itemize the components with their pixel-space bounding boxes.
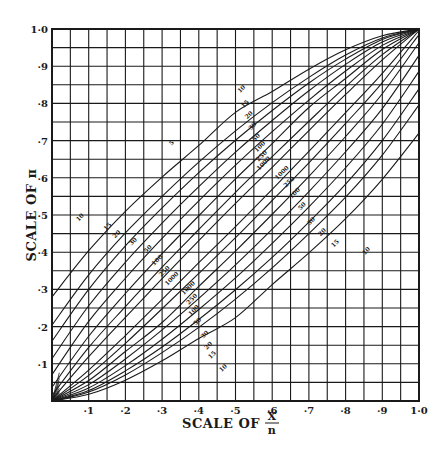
curve-label-left: 20 — [111, 228, 122, 239]
y-tick-label: ·9 — [38, 61, 48, 72]
x-tick-label: ·9 — [377, 405, 387, 416]
curve-label-upper: 5 — [167, 139, 175, 147]
y-axis-title: SCALE OF π — [24, 169, 39, 262]
y-tick-label: ·7 — [38, 136, 48, 147]
curve-label-upper: 20 — [243, 109, 254, 120]
curve-label-bottom: 250 — [185, 292, 199, 306]
y-tick-label: ·4 — [38, 247, 48, 258]
curve-label-lower: 20 — [316, 226, 327, 237]
grid — [52, 29, 419, 401]
x-axis-title-numerator: X — [267, 410, 276, 423]
x-tick-label: 1·0 — [410, 405, 427, 416]
x-tick-label: ·8 — [340, 405, 350, 416]
x-axis-title-text: SCALE OF — [182, 416, 260, 431]
curve-label-upper: 15 — [239, 98, 250, 109]
y-tick-label: 1·0 — [31, 24, 48, 35]
confidence-belt-chart: 1015203050100250100051000250100503020151… — [0, 0, 448, 456]
y-tick-label: ·1 — [38, 359, 48, 370]
curve-label-bottom: 15 — [206, 349, 217, 360]
y-tick-label: ·3 — [38, 284, 48, 295]
curve-label-lower: 15 — [329, 238, 340, 249]
y-tick-label: ·8 — [38, 98, 48, 109]
x-tick-label: ·4 — [194, 405, 204, 416]
curve-label-left: 15 — [102, 221, 113, 232]
x-tick-label: ·2 — [120, 405, 130, 416]
y-tick-label: ·6 — [38, 173, 48, 184]
y-tick-label: ·5 — [38, 210, 48, 221]
curve-label-left: 10 — [74, 212, 85, 223]
y-tick-label: ·2 — [38, 322, 48, 333]
curve-label-left: 30 — [127, 236, 138, 247]
x-axis-title-denominator: n — [268, 424, 277, 437]
x-tick-label: ·1 — [83, 405, 93, 416]
curve-label-lower: 100 — [287, 186, 301, 200]
x-tick-label: ·7 — [304, 405, 314, 416]
curve-label-lower: 10 — [360, 245, 371, 256]
x-tick-label: ·5 — [230, 405, 240, 416]
x-tick-label: ·3 — [157, 405, 167, 416]
x-axis-ticks: ·1·2·3·4·5·6·7·8·91·0 — [83, 405, 427, 416]
